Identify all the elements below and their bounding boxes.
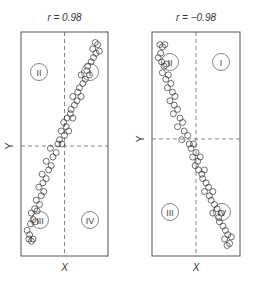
data-point	[210, 189, 216, 195]
data-point	[90, 46, 96, 52]
quadrant-label-IV: IV	[82, 212, 99, 229]
data-point	[200, 176, 206, 182]
data-point	[40, 180, 46, 186]
panel-title: r = 0.98	[47, 12, 82, 23]
data-point	[78, 94, 84, 100]
data-point	[179, 137, 185, 143]
data-point	[68, 106, 74, 112]
quadrant-label-III: III	[162, 204, 179, 221]
data-point	[96, 48, 102, 54]
data-point	[58, 128, 64, 134]
panel-title: r = −0.98	[176, 12, 216, 23]
svg-text:IV: IV	[86, 216, 95, 226]
data-point	[28, 210, 34, 216]
data-point	[53, 150, 59, 156]
scatter-panel-positive: r = 0.98 II I III IV Y X	[4, 12, 108, 273]
data-point	[185, 132, 191, 138]
quadrant-label-II: II	[31, 64, 48, 81]
data-point	[70, 94, 76, 100]
data-point	[222, 236, 228, 242]
y-axis-label: Y	[4, 142, 15, 149]
data-point	[190, 154, 196, 160]
svg-text:III: III	[166, 208, 174, 218]
quadrant-label-I: I	[213, 54, 230, 71]
svg-text:II: II	[167, 58, 172, 68]
data-point	[228, 234, 234, 240]
x-axis-label: X	[60, 262, 68, 273]
data-point	[33, 197, 39, 203]
data-point	[168, 81, 174, 87]
x-axis-label: X	[192, 262, 200, 273]
svg-text:II: II	[36, 68, 41, 78]
data-point	[177, 115, 183, 121]
data-point	[39, 171, 45, 177]
data-point	[201, 189, 207, 195]
data-point	[175, 124, 181, 130]
data-point	[78, 72, 84, 78]
scatter-panel-negative: r = −0.98 II I III IV Y X	[135, 12, 240, 273]
correlation-scatter-figure: r = 0.98 II I III IV Y X r = −0.98	[0, 0, 255, 282]
data-point	[181, 128, 187, 134]
svg-text:I: I	[220, 58, 223, 68]
y-axis-label: Y	[135, 135, 146, 142]
data-point	[180, 119, 186, 125]
data-point	[37, 202, 43, 208]
data-point	[171, 102, 177, 108]
data-point	[164, 85, 170, 91]
data-point	[50, 154, 56, 160]
data-point	[210, 210, 216, 216]
data-point	[43, 158, 49, 164]
data-point	[170, 111, 176, 117]
data-point	[159, 70, 165, 76]
data-point	[196, 167, 202, 173]
data-point	[217, 219, 223, 225]
